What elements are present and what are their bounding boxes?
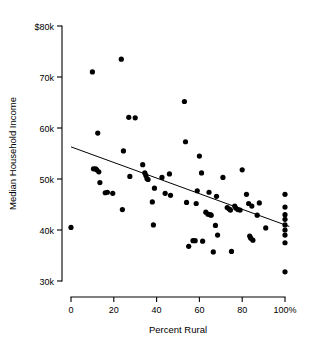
data-point (145, 177, 150, 182)
data-point (200, 239, 205, 244)
data-point (168, 193, 173, 198)
data-point (282, 233, 287, 238)
data-point (282, 227, 287, 232)
data-point (199, 170, 204, 175)
data-point (186, 244, 191, 249)
data-point (215, 233, 220, 238)
data-point (255, 213, 260, 218)
data-point (133, 115, 138, 120)
data-point (282, 204, 287, 209)
data-point (126, 115, 131, 120)
scatter-chart: $80k70k60k50k40k30k020406080100%Percent … (0, 0, 310, 356)
data-point (68, 225, 73, 230)
data-point (167, 171, 172, 176)
y-axis-tick-label-1: 70k (39, 73, 54, 83)
data-point (159, 175, 164, 180)
data-point (105, 190, 110, 195)
data-point (282, 269, 287, 274)
y-axis-tick-label-4: 40k (39, 226, 54, 236)
data-point (97, 180, 102, 185)
data-point (229, 249, 234, 254)
x-axis-tick-label-0: 0 (68, 305, 73, 315)
data-series-0 (68, 57, 287, 275)
x-axis-title: Percent Rural (149, 324, 207, 335)
data-point (206, 190, 211, 195)
y-axis-tick-label-2: 60k (39, 124, 54, 134)
data-point (194, 201, 199, 206)
plot-area: $80k70k60k50k40k30k020406080100%Percent … (0, 0, 310, 356)
data-point (95, 131, 100, 136)
data-point (119, 57, 124, 62)
data-point (282, 240, 287, 245)
data-point (214, 194, 219, 199)
y-axis-tick-label-5: 30k (39, 277, 54, 287)
data-point (163, 191, 168, 196)
data-point (240, 167, 245, 172)
data-point (195, 188, 200, 193)
data-point (184, 200, 189, 205)
data-point (237, 208, 242, 213)
x-axis-tick-label-4: 80 (237, 305, 247, 315)
data-point (110, 191, 115, 196)
data-point (282, 212, 287, 217)
data-point (213, 223, 218, 228)
data-point (127, 174, 132, 179)
data-point (197, 153, 202, 158)
data-point (257, 200, 262, 205)
data-point (209, 213, 214, 218)
data-point (151, 222, 156, 227)
data-point (250, 238, 255, 243)
data-point (182, 99, 187, 104)
data-point (228, 208, 233, 213)
x-axis-tick-label-1: 20 (109, 305, 119, 315)
x-axis-tick-label-2: 40 (152, 305, 162, 315)
data-point (150, 199, 155, 204)
data-point (263, 225, 268, 230)
y-axis-title: Median Household Income (7, 97, 18, 210)
data-point (96, 169, 101, 174)
data-point (249, 203, 254, 208)
x-axis-tick-label-5: 100% (273, 305, 296, 315)
y-axis-tick-label-0: $80k (34, 22, 54, 32)
data-point (120, 207, 125, 212)
data-point (282, 217, 287, 222)
x-axis-tick-label-3: 60 (194, 305, 204, 315)
data-point (152, 186, 157, 191)
data-point (244, 192, 249, 197)
data-point (282, 222, 287, 227)
data-point (282, 192, 287, 197)
data-point (140, 162, 145, 167)
data-point (90, 69, 95, 74)
data-point (183, 139, 188, 144)
y-axis-tick-label-3: 50k (39, 175, 54, 185)
data-point (220, 175, 225, 180)
data-point (211, 249, 216, 254)
data-point (193, 238, 198, 243)
data-point (121, 148, 126, 153)
